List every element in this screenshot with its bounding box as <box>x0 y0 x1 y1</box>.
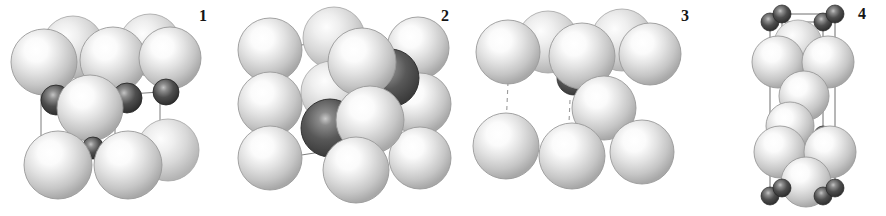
metal-atom <box>94 131 162 199</box>
metal-atom <box>476 20 540 84</box>
interstitial-atom <box>826 5 844 23</box>
interstitial-atom <box>773 179 791 197</box>
structure-panel-4: 4 <box>702 0 886 216</box>
panel-1-drawing <box>0 0 222 216</box>
interstitial-atom <box>773 5 791 23</box>
metal-atom <box>57 75 123 141</box>
metal-atom <box>238 126 302 190</box>
panel-label-4: 4 <box>858 6 866 22</box>
structure-panel-2: 2 <box>222 0 462 216</box>
interstitial-atom <box>826 179 844 197</box>
figure-canvas: 1 <box>0 0 886 216</box>
metal-atom <box>473 113 539 179</box>
metal-atom <box>323 137 389 203</box>
panel-label-3: 3 <box>681 8 689 24</box>
panel-label-1: 1 <box>199 8 207 24</box>
structure-panel-3: 3 <box>462 0 702 216</box>
panel-4-drawing <box>702 0 886 216</box>
structure-panel-1: 1 <box>0 0 222 216</box>
panel-label-2: 2 <box>441 8 449 24</box>
panel-3-drawing <box>462 0 702 216</box>
panel-2-drawing <box>222 0 462 216</box>
metal-atom <box>619 23 681 85</box>
metal-atom <box>610 120 674 184</box>
metal-atom <box>539 123 605 189</box>
metal-atom <box>24 131 92 199</box>
interstitial-atom <box>153 79 179 105</box>
metal-atom <box>328 28 396 96</box>
